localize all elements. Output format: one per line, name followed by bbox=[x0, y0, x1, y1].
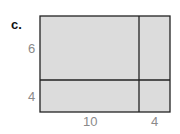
outer-rectangle bbox=[40, 16, 170, 112]
row-label-top: 6 bbox=[28, 42, 35, 55]
column-label-right: 4 bbox=[151, 115, 158, 128]
column-label-left: 10 bbox=[83, 115, 97, 128]
row-label-bottom: 4 bbox=[28, 90, 35, 103]
